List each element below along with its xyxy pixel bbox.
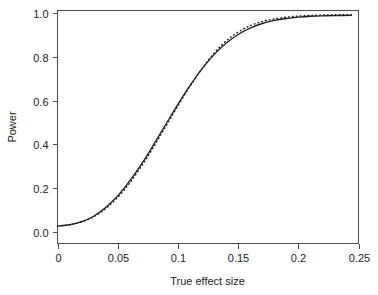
y-tick-label: 0.4 [33, 139, 48, 151]
x-tick-label: 0.15 [228, 252, 249, 264]
y-tick-label: 1.0 [33, 8, 48, 20]
x-tick-label: 0.05 [108, 252, 129, 264]
y-tick-label: 0.2 [33, 183, 48, 195]
x-tick-label: 0 [55, 252, 61, 264]
x-axis-title: True effect size [170, 275, 245, 287]
x-tick-label: 0.25 [349, 252, 370, 264]
power-curve-figure: 00.050.10.150.20.25 0.00.20.40.60.81.0 T… [0, 0, 378, 295]
y-tick-label: 0.8 [33, 52, 48, 64]
x-tick-label: 0.1 [171, 252, 186, 264]
y-tick-label: 0.6 [33, 96, 48, 108]
chart-canvas: 00.050.10.150.20.25 0.00.20.40.60.81.0 T… [0, 0, 378, 295]
x-tick-label: 0.2 [291, 252, 306, 264]
y-tick-label: 0.0 [33, 227, 48, 239]
y-axis-title: Power [6, 111, 18, 143]
